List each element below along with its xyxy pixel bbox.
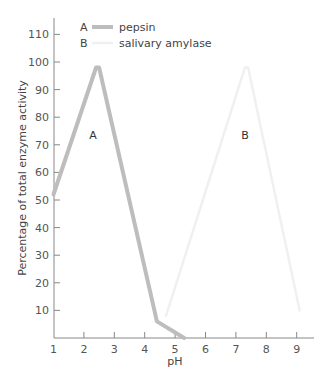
legend-key-B: B: [80, 37, 88, 50]
x-axis-title: pH: [167, 355, 182, 368]
legend-label-A: pepsin: [119, 21, 156, 34]
curve-label-A: A: [89, 129, 97, 142]
legend-key-A: A: [80, 21, 88, 34]
x-tick-label: 2: [80, 343, 87, 356]
y-tick-label: 60: [35, 166, 49, 179]
x-tick-label: 7: [232, 343, 239, 356]
series-layer: [54, 68, 300, 339]
y-tick-label: 90: [35, 84, 49, 97]
x-tick-label: 6: [202, 343, 209, 356]
enzyme-activity-chart: 102030405060708090100110 123456789 pH Pe…: [0, 0, 325, 377]
y-tick-label: 80: [35, 111, 49, 124]
x-tick-label: 9: [293, 343, 300, 356]
y-tick-label: 100: [28, 56, 49, 69]
curve-label-B: B: [241, 129, 249, 142]
y-tick-label: 20: [35, 277, 49, 290]
legend: ApepsinBsalivary amylase: [80, 21, 212, 50]
y-tick-label: 50: [35, 194, 49, 207]
x-tick-label: 8: [263, 343, 270, 356]
y-tick-label: 110: [28, 28, 49, 41]
x-ticks: 123456789: [50, 332, 300, 356]
legend-label-B: salivary amylase: [119, 37, 212, 50]
y-axis-title: Percentage of total enzyme activity: [16, 80, 29, 276]
series-line-pepsin: [54, 68, 185, 339]
y-tick-label: 30: [35, 249, 49, 262]
y-tick-label: 40: [35, 222, 49, 235]
x-tick-label: 3: [111, 343, 118, 356]
y-ticks: 102030405060708090100110: [28, 28, 60, 317]
x-tick-label: 1: [50, 343, 57, 356]
y-tick-label: 70: [35, 139, 49, 152]
y-tick-label: 10: [35, 304, 49, 317]
series-line-salivary-amylase: [166, 68, 300, 316]
x-tick-label: 4: [141, 343, 148, 356]
